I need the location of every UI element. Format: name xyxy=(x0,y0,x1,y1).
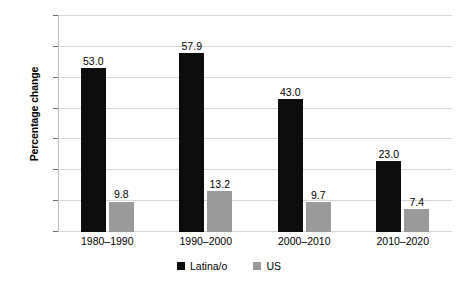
bar-chart: Percentage change 0.010.020.030.040.050.… xyxy=(0,0,458,284)
y-tick-mark xyxy=(53,138,58,139)
bar-latina-o-1 xyxy=(179,53,204,232)
y-tick-mark xyxy=(53,108,58,109)
legend-label: US xyxy=(266,261,281,272)
x-tick-label: 2010–2020 xyxy=(376,236,429,247)
bar-latina-o-2 xyxy=(278,99,303,232)
bar-value-label: 23.0 xyxy=(379,149,399,160)
bar-latina-o-3 xyxy=(376,161,401,232)
x-tick-label: 1980–1990 xyxy=(81,236,134,247)
bar-value-label: 53.0 xyxy=(83,56,103,67)
bar-value-label: 43.0 xyxy=(280,87,300,98)
x-tick-label: 2000–2010 xyxy=(278,236,331,247)
bar-us-1 xyxy=(207,191,232,232)
y-tick-mark xyxy=(53,46,58,47)
gridline xyxy=(58,77,452,78)
y-tick-mark xyxy=(53,77,58,78)
gridline xyxy=(58,108,452,109)
bar-value-label: 9.8 xyxy=(114,189,129,200)
legend-label: Latina/o xyxy=(190,261,227,272)
legend-swatch-icon xyxy=(253,262,261,270)
gridline xyxy=(58,15,452,16)
bar-latina-o-0 xyxy=(81,68,106,232)
bar-value-label: 9.7 xyxy=(311,190,326,201)
chart-legend: Latina/oUS xyxy=(0,261,458,272)
legend-item-us[interactable]: US xyxy=(253,261,281,272)
y-tick-mark xyxy=(53,169,58,170)
bar-value-label: 57.9 xyxy=(182,41,202,52)
y-tick-mark xyxy=(53,15,58,16)
y-tick-mark xyxy=(53,200,58,201)
bar-us-2 xyxy=(306,202,331,232)
bar-value-label: 7.4 xyxy=(409,197,424,208)
gridline xyxy=(58,46,452,47)
legend-item-latina-o[interactable]: Latina/o xyxy=(177,261,227,272)
bar-us-3 xyxy=(404,209,429,232)
bar-value-label: 13.2 xyxy=(210,179,230,190)
plot-area: 53.09.857.913.243.09.723.07.4 xyxy=(58,16,452,232)
x-tick-label: 1990–2000 xyxy=(179,236,232,247)
bar-us-0 xyxy=(109,202,134,232)
y-tick-mark xyxy=(53,231,58,232)
gridline xyxy=(58,138,452,139)
y-axis-title: Percentage change xyxy=(28,34,40,194)
legend-swatch-icon xyxy=(177,262,185,270)
